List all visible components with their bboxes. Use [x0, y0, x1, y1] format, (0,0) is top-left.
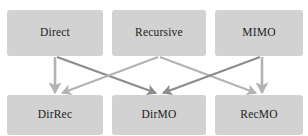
node-direct[interactable]: Direct [7, 10, 103, 56]
node-mimo[interactable]: MIMO [215, 10, 303, 56]
node-label: RecMO [240, 109, 277, 121]
node-label: MIMO [242, 27, 275, 39]
node-recursive[interactable]: Recursive [112, 10, 206, 56]
node-dirrec[interactable]: DirRec [7, 95, 103, 135]
edge-mimo-to-dirmo [163, 57, 260, 93]
node-dirmo[interactable]: DirMO [112, 95, 206, 135]
edge-direct-to-dirmo [57, 57, 156, 93]
node-label: DirMO [142, 109, 177, 121]
edge-recursive-to-dirrec [62, 57, 158, 93]
edge-recursive-to-recmo [160, 57, 256, 93]
node-recmo[interactable]: RecMO [215, 95, 303, 135]
node-label: Direct [40, 27, 70, 39]
node-label: DirRec [38, 109, 72, 121]
diagram-canvas: Direct Recursive MIMO DirRec DirMO RecMO [0, 0, 308, 136]
node-label: Recursive [135, 27, 183, 39]
